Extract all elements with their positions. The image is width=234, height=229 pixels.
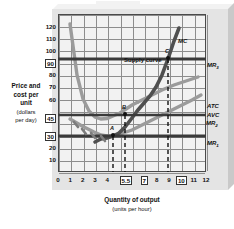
gridline-horizontal — [59, 173, 205, 174]
y-tick-highlight: 90 — [45, 59, 56, 68]
y-tick-label: 80 — [36, 71, 56, 78]
y-axis-subtitle-l1: (dollars — [16, 109, 35, 115]
mr2-subscript: 2 — [215, 123, 217, 128]
x-axis-title-main: Quantity of output — [104, 196, 159, 203]
atc-label: ATC — [207, 103, 219, 109]
y-tick-label: 20 — [36, 144, 56, 151]
mc-label: MC — [178, 38, 187, 44]
point-b-marker — [123, 112, 127, 116]
mr1-text: MR — [207, 140, 216, 146]
supply-curve-label: Supply curve — [124, 57, 162, 63]
y-tick-label: 120 — [36, 23, 56, 30]
x-axis-ticks: 012345.5789101112 — [58, 176, 206, 188]
x-tick-label: 12 — [199, 176, 213, 183]
y-tick-label: 100 — [36, 47, 56, 54]
y-tick-label: 10 — [36, 156, 56, 163]
mr2-label: MR2 — [206, 120, 218, 128]
x-axis-subtitle: (units per hour) — [112, 206, 151, 212]
plate-right-bevel — [228, 3, 234, 190]
y-axis-title-l2: cost per — [14, 91, 39, 98]
y-tick-highlight: 30 — [45, 132, 56, 141]
x-tick-highlight: 10 — [176, 176, 187, 185]
mr3-subscript: 3 — [216, 65, 218, 70]
mr1-subscript: 1 — [216, 143, 218, 148]
avc-label: AVC — [207, 112, 219, 118]
x-tick-label: 4 — [100, 176, 114, 183]
point-b-label: B — [122, 104, 126, 110]
point-c-marker — [166, 56, 170, 60]
mr3-label: MR3 — [207, 62, 219, 70]
figure-root: A B C MC Supply curve MR3 ATC AVC MR2 MR… — [0, 0, 234, 229]
y-axis-title-l3: unit — [20, 99, 32, 106]
point-c-label: C — [165, 48, 169, 54]
point-a-label: A — [110, 125, 114, 131]
atc-curve — [70, 24, 138, 119]
y-axis-title-l1: Price and — [12, 82, 41, 89]
y-axis-subtitle-l2: per day) — [15, 117, 36, 123]
y-axis-title: Price and cost per unit (dollars per day… — [0, 82, 52, 125]
mr1-label: MR1 — [207, 140, 219, 148]
x-axis-title: Quantity of output (units per hour) — [58, 196, 206, 213]
y-tick-label: 30 — [36, 132, 56, 141]
mr2-text: MR — [206, 120, 215, 126]
x-tick-label: 5.5 — [119, 176, 133, 185]
mc-curve — [95, 28, 179, 142]
x-tick-highlight: 7 — [141, 176, 148, 185]
x-tick-highlight: 5.5 — [120, 176, 133, 185]
y-tick-label: 90 — [36, 59, 56, 68]
point-a-marker — [111, 133, 115, 137]
y-tick-label: 110 — [36, 35, 56, 42]
mr3-text: MR — [207, 62, 216, 68]
